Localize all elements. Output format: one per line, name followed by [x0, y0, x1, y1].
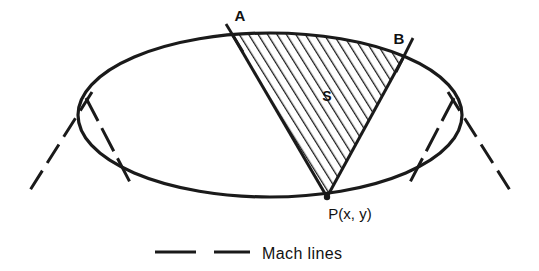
legend: Mach lines — [155, 245, 342, 262]
mach-line-left-inner — [86, 98, 133, 188]
hatch-fill — [232, 31, 403, 197]
mach-line-left-outer — [27, 92, 92, 195]
legend-label: Mach lines — [262, 245, 342, 262]
label-region-s: S — [322, 88, 331, 104]
label-point-b: B — [394, 30, 405, 47]
point-p-marker — [324, 194, 330, 200]
mach-line-diagram: A B S P(x, y) Mach lines — [0, 0, 539, 271]
label-point-a: A — [235, 7, 246, 24]
mach-line-right-outer — [448, 92, 513, 195]
region-s-hatching — [232, 31, 403, 197]
mach-line-right-inner — [407, 98, 454, 188]
label-point-p: P(x, y) — [328, 205, 371, 222]
